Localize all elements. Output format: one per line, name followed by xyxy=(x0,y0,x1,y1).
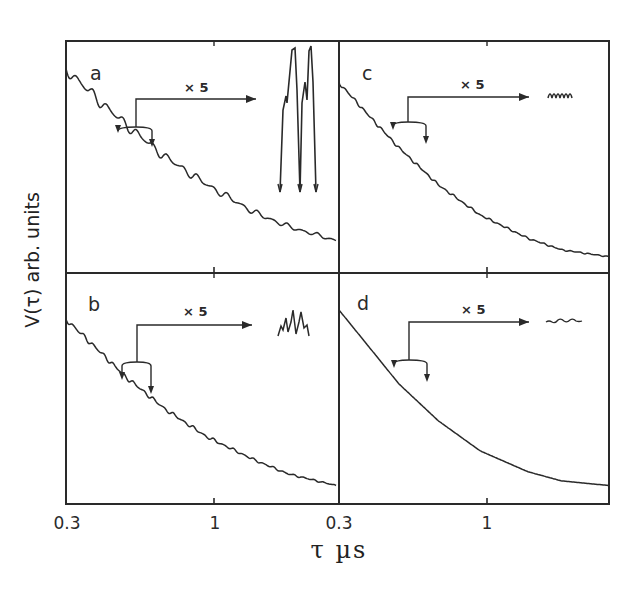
figure: a c b d × 5 × 5 × 5 × 5 0.3 1 0.3 1 τ µs… xyxy=(0,0,638,592)
x-axis-label: τ µs xyxy=(311,536,368,564)
x-tick-label-right-0.3: 0.3 xyxy=(325,513,352,533)
magnification-label-a: × 5 xyxy=(184,80,208,95)
inset-trace-d xyxy=(546,319,582,322)
magnification-label-b: × 5 xyxy=(183,304,207,319)
bracket-arrow-d xyxy=(409,322,529,360)
y-axis-label: V(τ) arb. units xyxy=(21,192,43,328)
x-tick-label-right-1: 1 xyxy=(482,513,493,533)
panel-label-a: a xyxy=(90,62,102,84)
magnification-label-c: × 5 xyxy=(460,77,484,92)
arrowhead-right-d xyxy=(519,318,529,326)
bracket-arrow-b xyxy=(137,325,252,362)
arrowhead-right-a xyxy=(246,95,256,103)
inset-trace-c xyxy=(548,94,572,98)
x-tick-label-left-1: 1 xyxy=(210,513,221,533)
decay-curve-c xyxy=(339,83,609,257)
arrowhead-right-c xyxy=(519,93,529,101)
arrowhead-down-right-b xyxy=(148,386,154,394)
bracket-fork-d xyxy=(394,360,427,378)
panel-label-d: d xyxy=(357,292,369,314)
arrowhead-down-left-b xyxy=(119,372,125,380)
bracket-fork-c xyxy=(393,122,426,140)
arrowhead-down-right-d xyxy=(424,374,430,382)
decay-curve-d xyxy=(339,310,609,486)
arrowhead-right-b xyxy=(242,321,252,329)
panel-label-b: b xyxy=(88,293,100,315)
arrowhead-down-right-c xyxy=(423,136,429,144)
magnification-label-d: × 5 xyxy=(461,302,485,317)
x-tick-label-left-0.3: 0.3 xyxy=(53,513,80,533)
bracket-arrow-c xyxy=(408,97,529,122)
inset-trace-b xyxy=(278,310,309,336)
inset-trace-a xyxy=(280,46,316,192)
decay-curve-b xyxy=(66,319,336,485)
panel-label-c: c xyxy=(362,62,372,84)
inset-arrow-tips-a xyxy=(278,184,318,192)
arrowhead-down-left-c xyxy=(390,122,396,130)
arrowhead-down-left-d xyxy=(391,360,397,368)
bracket-arrow-a xyxy=(136,99,256,127)
